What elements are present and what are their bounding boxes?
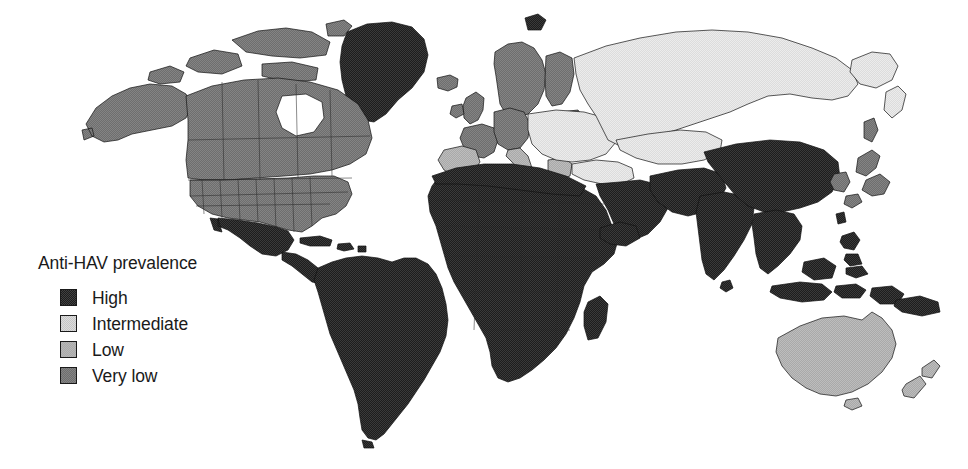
legend-row-verylow: Very low (38, 364, 197, 387)
world-map (0, 0, 968, 469)
region-taiwan (836, 212, 846, 224)
world-prevalence-figure: Anti-HAV prevalence High Intermediate Lo… (0, 0, 968, 469)
legend-swatch-high (60, 289, 77, 306)
legend-label-low: Low (92, 340, 124, 360)
legend-row-high: High (38, 286, 197, 309)
legend-swatch-low (60, 341, 77, 358)
legend-swatch-intermediate (60, 315, 77, 332)
legend-label-high: High (92, 288, 128, 308)
legend-label-intermediate: Intermediate (92, 314, 188, 334)
legend-label-verylow: Very low (92, 366, 157, 386)
legend-row-intermediate: Intermediate (38, 312, 197, 335)
legend-swatch-verylow (60, 367, 77, 384)
legend-title: Anti-HAV prevalence (38, 253, 197, 273)
map-legend: Anti-HAV prevalence High Intermediate Lo… (38, 253, 197, 390)
legend-row-low: Low (38, 338, 197, 361)
